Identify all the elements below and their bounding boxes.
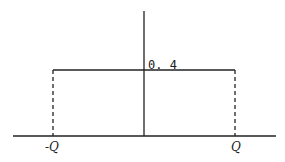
chart-canvas <box>0 0 285 162</box>
neg-q-label: -Q <box>45 140 59 154</box>
pos-q-label: Q <box>231 140 241 154</box>
density-value-label: 0. 4 <box>148 58 177 72</box>
